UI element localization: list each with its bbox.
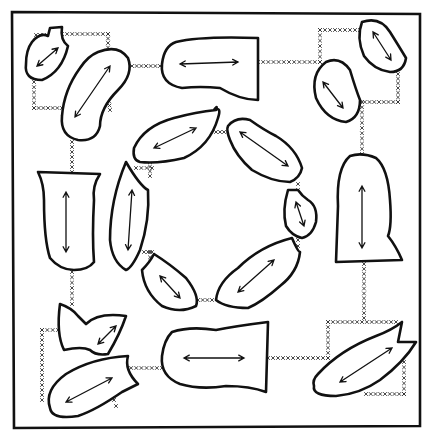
pattern-piece-bl-leaf [49, 356, 138, 417]
pattern-piece-ring-bottom-left [142, 254, 197, 310]
cross-stitch-line [60, 32, 110, 36]
cross-stitch-line [402, 360, 406, 396]
cross-stitch-line [214, 130, 226, 134]
cross-stitch-line [142, 250, 154, 254]
cross-stitch-line [364, 392, 406, 396]
pattern-piece-bl-fish [59, 304, 126, 355]
cross-stitch-line [124, 366, 164, 370]
cross-stitch-line [358, 100, 400, 104]
pattern-piece-ring-top-left [134, 107, 220, 163]
cross-stitch-line [196, 298, 214, 302]
pattern-piece-tl-small [26, 27, 68, 80]
pattern-piece-left-cup [38, 172, 100, 270]
cross-stitch-line [318, 28, 362, 32]
pattern-piece-bottom-bell [162, 322, 268, 392]
pattern-piece-tl-bean [62, 49, 130, 140]
cross-stitch-line [32, 80, 36, 110]
pattern-piece-right-bell [336, 154, 402, 262]
cross-stitch-line [70, 140, 74, 174]
cross-stitch-line [266, 356, 330, 360]
cross-stitch-line [326, 320, 398, 324]
pattern-piece-ring-bottom-right [216, 238, 300, 308]
cross-stitch-line [318, 28, 322, 64]
cross-stitch-line [130, 64, 162, 68]
cross-stitch-line [396, 72, 400, 104]
cross-stitch-line [40, 328, 44, 402]
cross-stitch-line [326, 320, 330, 360]
pattern-piece-top-bell [162, 38, 258, 101]
pattern-piece-ring-top-right [227, 119, 302, 182]
pattern-piece-tr-mid [314, 60, 360, 122]
cross-stitch-line [32, 106, 64, 110]
cross-stitch-line [360, 100, 364, 156]
cross-stitch-line [362, 262, 366, 320]
cross-stitch-line [70, 270, 74, 306]
cross-stitch-line [256, 60, 322, 64]
cross-stitch-line [112, 398, 118, 408]
pattern-layout-diagram [0, 0, 432, 438]
